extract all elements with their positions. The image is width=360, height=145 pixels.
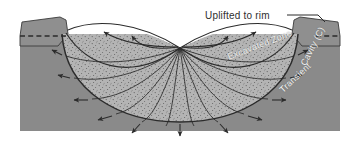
label-uplifted-to-rim: Uplifted to rim	[205, 10, 270, 21]
crater-diagram-figure: Uplifted to rim Excavated Zone Cavity (C…	[0, 0, 360, 145]
